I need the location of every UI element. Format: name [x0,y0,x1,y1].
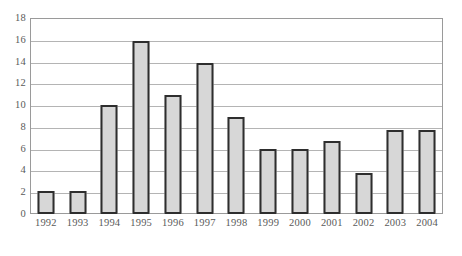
bar-slot [221,18,253,214]
bar [133,41,150,214]
bar [37,191,54,214]
y-axis-tick-label: 0 [2,209,26,220]
bar [323,141,340,214]
bar [164,95,181,214]
x-axis-tick-labels: 1992199319941995199619971998199920002001… [30,218,443,236]
x-axis-tick-label: 2004 [411,218,443,229]
x-axis-tick-label: 2002 [348,218,380,229]
bar-chart: 024681012141618 199219931994199519961997… [0,0,462,256]
y-axis-tick-label: 4 [2,165,26,176]
bar [228,117,245,214]
y-axis-tick-label: 10 [2,100,26,111]
x-axis-tick-label: 1999 [252,218,284,229]
bar [292,149,309,214]
bar-slot [348,18,380,214]
bar-slot [379,18,411,214]
bar-slot [30,18,62,214]
y-axis-tick-label: 18 [2,13,26,24]
bar-slot [252,18,284,214]
bar-slot [189,18,221,214]
bar-slot [411,18,443,214]
bar [260,149,277,214]
bar-slot [94,18,126,214]
x-axis-tick-label: 1997 [189,218,221,229]
bar-slot [125,18,157,214]
y-axis-tick-label: 14 [2,57,26,68]
bar [196,63,213,214]
bar [101,105,118,214]
y-axis-tick-label: 8 [2,122,26,133]
bar-slot [316,18,348,214]
bar-slot [284,18,316,214]
x-axis-tick-label: 2001 [316,218,348,229]
y-axis-tick-label: 16 [2,35,26,46]
x-axis-tick-label: 2003 [379,218,411,229]
x-axis-tick-label: 1994 [94,218,126,229]
figure-caption [4,243,124,254]
y-axis-tick-label: 2 [2,187,26,198]
x-axis-tick-label: 1992 [30,218,62,229]
bar [69,191,86,214]
bar-slot [62,18,94,214]
bar [387,130,404,214]
bar [355,173,372,214]
x-axis-tick-label: 1995 [125,218,157,229]
x-axis-tick-label: 1993 [62,218,94,229]
x-axis-tick-label: 1998 [221,218,253,229]
y-axis-tick-label: 6 [2,144,26,155]
bar-series [30,18,443,214]
bar [419,130,436,214]
x-axis-tick-label: 2000 [284,218,316,229]
y-axis-tick-label: 12 [2,78,26,89]
bar-slot [157,18,189,214]
x-axis-tick-label: 1996 [157,218,189,229]
